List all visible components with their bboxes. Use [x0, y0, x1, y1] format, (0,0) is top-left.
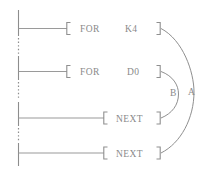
rung-for-k4-open-bracket	[67, 23, 71, 35]
loop-arc-a-label: A	[188, 87, 195, 97]
rung-for-k4-operand: K4	[125, 24, 137, 34]
rung-next-outer: NEXT	[19, 147, 161, 159]
loop-arc-b-label: B	[170, 88, 176, 98]
rung-next-inner-open-bracket	[104, 112, 108, 124]
ladder-diagram-canvas: FOR K4 FOR D0 NEXT NEXT A	[0, 0, 209, 173]
rung-for-d0-close-bracket	[157, 66, 161, 78]
rung-for-d0-instruction: FOR	[80, 67, 100, 77]
rung-for-d0-open-bracket	[67, 66, 71, 78]
rung-next-outer-open-bracket	[104, 147, 108, 159]
rung-next-inner: NEXT	[19, 112, 161, 124]
rung-for-k4: FOR K4	[19, 23, 161, 35]
rung-next-outer-close-bracket	[157, 147, 161, 159]
rung-next-inner-close-bracket	[157, 112, 161, 124]
rung-for-k4-instruction: FOR	[80, 24, 100, 34]
ladder-diagram-svg: FOR K4 FOR D0 NEXT NEXT A	[0, 0, 209, 173]
rung-next-outer-instruction: NEXT	[116, 149, 143, 159]
rung-for-d0: FOR D0	[19, 66, 161, 78]
rung-for-k4-close-bracket	[157, 23, 161, 35]
rung-for-d0-operand: D0	[127, 67, 139, 77]
rung-next-inner-instruction: NEXT	[116, 114, 143, 124]
loop-arc-b: B	[161, 72, 179, 119]
